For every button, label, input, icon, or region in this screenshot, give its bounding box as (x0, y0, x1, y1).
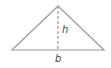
height-label: h (62, 24, 68, 35)
base-label: b (55, 53, 61, 64)
triangle-diagram: h b (0, 0, 111, 68)
